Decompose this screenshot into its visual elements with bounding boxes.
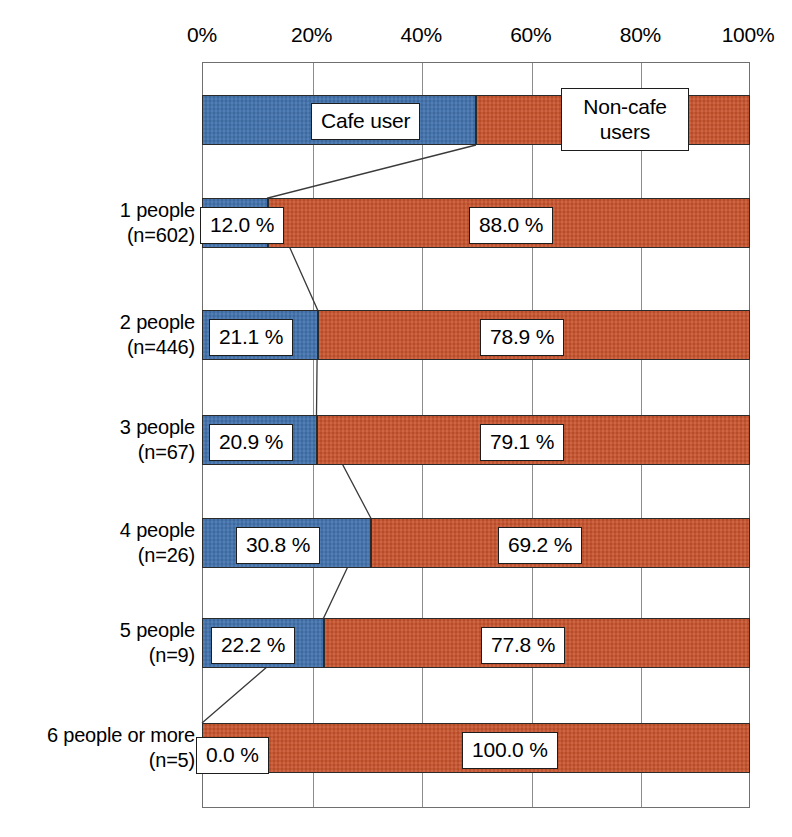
category-label-row-6-line2: (n=5) [47, 748, 195, 773]
x-tick-80: 80% [620, 22, 661, 48]
x-tick-60: 60% [510, 22, 551, 48]
x-tick-0: 0% [187, 22, 217, 48]
x-axis-tick-labels: 0% 20% 40% 60% 80% 100% [0, 22, 792, 52]
category-label-row-4: 4 people (n=26) [120, 518, 195, 568]
category-label-row-1-line2: (n=602) [120, 223, 195, 248]
legend-label-cafe-user: Cafe user [311, 103, 420, 140]
x-tick-40: 40% [401, 22, 442, 48]
value-label-cafe-user-row-5: 22.2 % [211, 627, 295, 664]
legend-noncafe-line2: users [600, 120, 650, 143]
category-label-row-6-line1: 6 people or more [47, 723, 195, 748]
legend-noncafe-line1: Non-cafe [583, 95, 667, 118]
value-label-cafe-user-row-2: 21.1 % [209, 319, 293, 356]
category-label-row-5: 5 people (n=9) [120, 618, 195, 668]
value-label-noncafe-users-row-1: 88.0 % [469, 207, 553, 244]
stacked-bar-chart: 0% 20% 40% 60% 80% 100% Cafe user Non-ca… [0, 0, 792, 837]
category-label-row-3-line2: (n=67) [120, 440, 195, 465]
value-label-cafe-user-row-6: 0.0 % [196, 737, 269, 774]
value-label-noncafe-users-row-3: 79.1 % [480, 424, 564, 461]
value-label-noncafe-users-row-4: 69.2 % [498, 527, 582, 564]
x-tick-100: 100% [722, 22, 775, 48]
category-label-row-5-line2: (n=9) [120, 643, 195, 668]
value-label-cafe-user-row-1: 12.0 % [200, 207, 284, 244]
category-label-row-2-line2: (n=446) [120, 335, 195, 360]
category-label-row-3: 3 people (n=67) [120, 415, 195, 465]
category-label-row-1-line1: 1 people [120, 198, 195, 223]
value-label-cafe-user-row-3: 20.9 % [209, 424, 293, 461]
category-label-row-3-line1: 3 people [120, 415, 195, 440]
category-label-row-4-line2: (n=26) [120, 543, 195, 568]
x-tick-20: 20% [291, 22, 332, 48]
value-label-noncafe-users-row-2: 78.9 % [480, 319, 564, 356]
category-label-row-2: 2 people (n=446) [120, 310, 195, 360]
value-label-cafe-user-row-4: 30.8 % [236, 527, 320, 564]
legend-label-noncafe-users: Non-cafe users [561, 88, 689, 151]
value-label-noncafe-users-row-5: 77.8 % [481, 627, 565, 664]
category-label-row-4-line1: 4 people [120, 518, 195, 543]
category-label-row-6: 6 people or more (n=5) [47, 723, 195, 773]
value-label-noncafe-users-row-6: 100.0 % [462, 732, 558, 769]
category-label-row-1: 1 people (n=602) [120, 198, 195, 248]
category-label-row-5-line1: 5 people [120, 618, 195, 643]
category-label-row-2-line1: 2 people [120, 310, 195, 335]
